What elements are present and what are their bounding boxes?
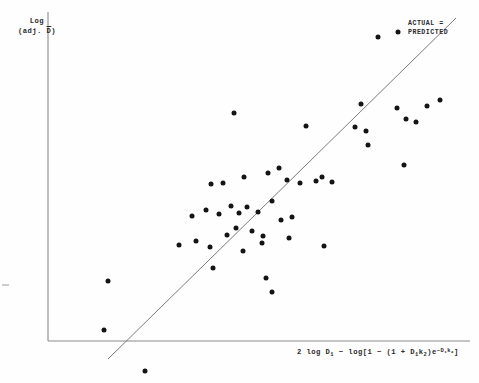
data-point — [396, 30, 401, 35]
data-point — [225, 233, 230, 238]
data-point — [260, 241, 265, 246]
data-point — [204, 208, 209, 213]
data-point — [102, 328, 107, 333]
data-point — [376, 35, 381, 40]
y-axis-label-suffix: ) — [51, 27, 56, 35]
data-point — [250, 229, 255, 234]
data-point — [304, 124, 309, 129]
data-point — [190, 214, 195, 219]
data-point — [270, 199, 275, 204]
annotation-line1: ACTUAL = — [408, 19, 448, 28]
data-point — [237, 211, 242, 216]
data-point — [320, 175, 325, 180]
data-point — [261, 234, 266, 239]
data-point — [221, 181, 226, 186]
data-point — [314, 179, 319, 184]
data-point — [270, 290, 275, 295]
data-point — [217, 212, 222, 217]
data-point — [330, 180, 335, 185]
data-point — [194, 239, 199, 244]
data-point — [229, 204, 234, 209]
data-point — [143, 369, 148, 374]
data-point — [264, 276, 269, 281]
data-point — [279, 218, 284, 223]
data-point — [106, 279, 111, 284]
data-point — [177, 243, 182, 248]
y-axis-label-line1: Log — [9, 17, 65, 27]
data-point — [211, 266, 216, 271]
data-point — [208, 245, 213, 250]
data-point — [364, 129, 369, 134]
data-point — [232, 111, 237, 116]
data-point — [395, 106, 400, 111]
identity-line-annotation: ACTUAL = PREDICTED — [408, 19, 448, 37]
data-point — [285, 178, 290, 183]
data-point — [402, 163, 407, 168]
data-point — [256, 210, 261, 215]
identity-reference-line — [108, 18, 456, 359]
data-point — [290, 215, 295, 220]
data-point — [425, 104, 430, 109]
x-axis-sub-1: 1 — [330, 351, 334, 358]
data-point — [359, 102, 364, 107]
plot-canvas — [0, 0, 479, 383]
data-point — [245, 205, 250, 210]
data-point — [438, 98, 443, 103]
data-point — [404, 117, 409, 122]
data-point — [414, 120, 419, 125]
y-axis-label-line2: (adj. D) — [9, 27, 65, 37]
y-axis-label: Log (adj. D) — [9, 17, 65, 36]
data-point — [266, 171, 271, 176]
data-point — [241, 249, 246, 254]
data-point — [287, 236, 292, 241]
y-axis-label-prefix: (adj. — [18, 27, 47, 35]
data-point — [298, 181, 303, 186]
data-point — [234, 226, 239, 231]
annotation-line2: PREDICTED — [408, 28, 448, 37]
data-point — [366, 143, 371, 148]
x-axis-sub-3: 2 — [424, 351, 428, 358]
x-axis-sub-2: 1 — [415, 351, 419, 358]
data-point — [277, 166, 282, 171]
data-point — [242, 175, 247, 180]
x-axis-exponent: −D1k2 — [437, 347, 454, 354]
scatter-plot-figure: Log (adj. D) 2 log D1 − log[1 − (1 + D1k… — [0, 0, 479, 383]
data-point — [209, 182, 214, 187]
data-point — [353, 125, 358, 130]
x-axis-label: 2 log D1 − log[1 − (1 + D1k2)e−D1k2] — [297, 346, 459, 359]
data-point — [322, 244, 327, 249]
